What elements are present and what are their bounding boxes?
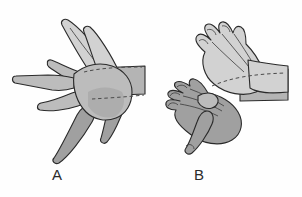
hand-movements-figure: .ol { stroke:#2a2a2a; stroke-width:1.1; … [0,0,302,197]
illustration-canvas: .ol { stroke:#2a2a2a; stroke-width:1.1; … [0,0,302,197]
panel-a-hand-abducted [12,19,145,163]
finger-lower-a [53,106,95,163]
upper-thumb-overlap-b [198,93,218,109]
panel-b-hand-adducted [166,22,288,154]
upper-wrist-b [248,60,288,93]
finger-ring-a [12,75,74,90]
panel-label-b: B [194,167,205,182]
panel-label-a: A [52,167,63,182]
